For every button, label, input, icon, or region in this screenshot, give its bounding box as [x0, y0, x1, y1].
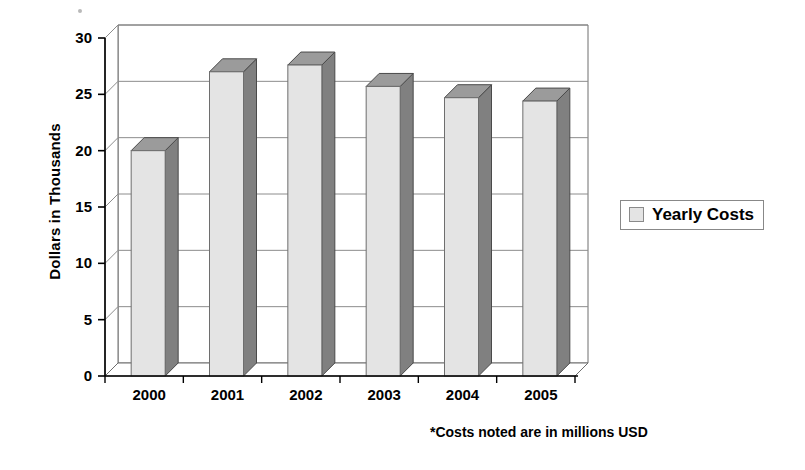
bar-side-face [400, 73, 413, 376]
bar-front-face [445, 98, 479, 376]
bar-2005 [523, 88, 570, 376]
bar-front-face [288, 65, 322, 376]
x-axis-label-2001: 2001 [188, 386, 268, 403]
bar-side-face [165, 138, 178, 376]
legend-swatch-yearly-costs [629, 207, 644, 222]
x-axis-label-2004: 2004 [423, 386, 503, 403]
footnote: *Costs noted are in millions USD [430, 424, 648, 440]
x-axis-label-2005: 2005 [501, 386, 581, 403]
x-axis-label-2002: 2002 [266, 386, 346, 403]
bar-2004 [445, 85, 492, 376]
bar-2002 [288, 52, 335, 376]
bar-2003 [366, 73, 413, 376]
floor [105, 363, 588, 376]
bar-side-face [479, 85, 492, 376]
x-axis-label-2000: 2000 [109, 386, 189, 403]
x-axis-ticks [105, 376, 575, 383]
bar-chart: Dollars in Thousands 051015202530 200020… [0, 0, 805, 470]
axis-lines [98, 38, 105, 376]
bar-front-face [366, 86, 400, 376]
bar-front-face [210, 72, 244, 376]
x-axis-label-2003: 2003 [344, 386, 424, 403]
bar-2000 [131, 138, 178, 376]
bar-side-face [322, 52, 335, 376]
bar-side-face [244, 59, 257, 376]
bar-side-face [557, 88, 570, 376]
legend-label-yearly-costs: Yearly Costs [652, 206, 754, 223]
bar-front-face [131, 151, 165, 376]
legend[interactable]: Yearly Costs [620, 200, 764, 230]
bar-2001 [210, 59, 257, 376]
bar-front-face [523, 101, 557, 376]
